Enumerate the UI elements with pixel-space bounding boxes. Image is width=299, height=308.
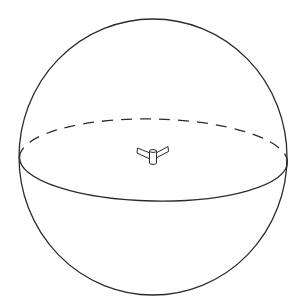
sphere-diagram [0,0,299,308]
diagram-canvas [0,0,299,308]
center-object-icon [137,147,169,165]
